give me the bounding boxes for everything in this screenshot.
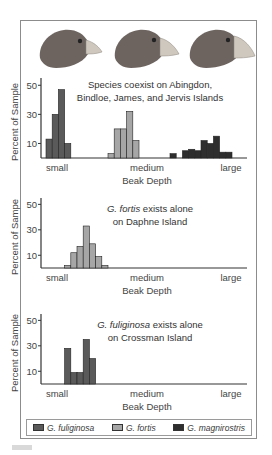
finch-head-small-beak-icon (40, 30, 102, 68)
bar (71, 373, 77, 384)
chart-coexist: 103050Percent of SampleSpecies coexist o… (0, 70, 272, 190)
bar (120, 129, 126, 158)
bar (114, 129, 120, 158)
bar (127, 111, 133, 158)
bar (58, 90, 64, 158)
y-tick-label: 30 (26, 340, 37, 351)
y-tick-label: 30 (26, 109, 37, 120)
bar (89, 359, 95, 384)
chart-title-line: G. fortis exists alone (107, 203, 193, 214)
bar (189, 149, 195, 158)
bar (182, 151, 188, 158)
bar (83, 339, 89, 384)
y-tick-label: 10 (26, 250, 37, 261)
x-tick-label: medium (130, 388, 164, 399)
chart-title-line: on Daphne Island (113, 216, 187, 227)
legend-label: G. fortis (126, 423, 156, 433)
bar (195, 151, 201, 158)
bar (108, 154, 114, 158)
bar (46, 139, 52, 158)
x-tick-label: large (220, 272, 241, 283)
bar (226, 152, 232, 158)
y-tick-label: 30 (26, 224, 37, 235)
y-axis-label: Percent of Sample (9, 83, 20, 161)
finch-head-large-beak-icon (190, 30, 255, 68)
chart-title-line: on Crossman Island (108, 332, 192, 343)
legend-label: G. magnirostris (187, 423, 245, 433)
y-tick-label: 50 (26, 315, 37, 326)
bar (89, 244, 95, 268)
bar (77, 373, 83, 384)
bar (65, 143, 71, 158)
bar (96, 257, 102, 268)
bar (83, 226, 89, 268)
y-tick-label: 10 (26, 138, 37, 149)
x-axis-label: Beak Depth (122, 401, 172, 412)
bar (102, 265, 108, 268)
bar (52, 114, 58, 158)
bar (77, 246, 83, 268)
chart-fortis-alone: 103050Percent of SampeG. fortis exists a… (0, 190, 272, 300)
x-tick-label: small (46, 272, 68, 283)
x-tick-label: medium (130, 272, 164, 283)
y-tick-label: 10 (26, 366, 37, 377)
footer-mark (12, 445, 32, 450)
bar (71, 253, 77, 268)
bar (65, 265, 71, 268)
bar (207, 143, 213, 158)
x-tick-label: large (220, 162, 241, 173)
legend: G. fuliginosa G. fortis G. magnirostris (26, 419, 252, 436)
chart-title-line: Species coexist on Abingdon, (88, 79, 212, 90)
y-tick-label: 50 (26, 80, 37, 91)
x-tick-label: small (46, 162, 68, 173)
y-axis-label: Percent of Sample (9, 314, 20, 392)
bar (220, 152, 226, 158)
x-tick-label: small (46, 388, 68, 399)
x-axis-label: Beak Depth (122, 175, 172, 186)
finch-heads (30, 20, 260, 70)
chart-title-line: G. fuliginosa exists alone (97, 319, 203, 330)
finch-head-medium-beak-icon (115, 30, 179, 68)
bar (133, 141, 139, 158)
y-axis-label: Percent of Sampe (9, 199, 20, 275)
legend-item-fuliginosa: G. fuliginosa (33, 423, 94, 433)
legend-swatch-fuliginosa (33, 424, 44, 431)
x-tick-label: medium (130, 162, 164, 173)
x-axis-label: Beak Depth (122, 285, 172, 296)
bar (170, 154, 176, 158)
bar (65, 348, 71, 384)
legend-swatch-magnirostris (173, 424, 184, 431)
legend-label: G. fuliginosa (47, 423, 94, 433)
bar (213, 136, 219, 158)
legend-swatch-fortis (112, 424, 123, 431)
chart-title-line: Bindloe, James, and Jervis Islands (77, 92, 224, 103)
legend-item-magnirostris: G. magnirostris (173, 423, 245, 433)
chart-fuliginosa-alone: 103050Percent of SampleG. fuliginosa exi… (0, 300, 272, 415)
legend-item-fortis: G. fortis (112, 423, 156, 433)
y-tick-label: 50 (26, 199, 37, 210)
x-tick-label: large (220, 388, 241, 399)
bar (201, 141, 207, 158)
